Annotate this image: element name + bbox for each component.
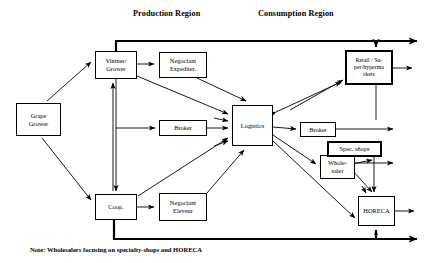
edge-vintner-to-logistics (137, 76, 228, 114)
node-spec-shops[interactable]: Spec. shops (327, 141, 382, 157)
edge-lower-left-to-retail (290, 80, 343, 110)
edge-logistics-to-broker-consumption (273, 127, 296, 129)
node-negociant-expediter[interactable]: NegociantExpediter. (159, 52, 207, 78)
edge-coop-to-logistics (138, 138, 228, 196)
node-vintner-grower[interactable]: Vintner/Grower (95, 51, 137, 79)
node-wholesaler[interactable]: Whole-saler (320, 155, 355, 179)
region-label-consumption: Consumption Region (258, 9, 334, 18)
edge-eleveur-to-logistics (207, 150, 244, 193)
node-retail-supermarkets[interactable]: Retail / Su-per/hypermarkets (345, 50, 393, 85)
diagram-note: Note: Wholesalers focusing on specialty-… (30, 246, 202, 253)
horeca-inbound-cluster (362, 186, 366, 193)
node-grape-grower[interactable]: GrapeGrower (16, 103, 61, 136)
supply-chain-diagram: Production Region Consumption Region Gra… (0, 0, 431, 263)
region-label-production: Production Region (133, 9, 200, 18)
node-negociant-eleveur[interactable]: NegociantEleveur (159, 193, 207, 221)
logistics-inbound-cluster (214, 118, 228, 146)
edge-expediter-to-logistics (197, 78, 246, 101)
edge-logistics-to-wholesaler (273, 135, 316, 164)
node-coop[interactable]: Coop. (95, 194, 137, 220)
node-logistics[interactable]: Logistics (232, 105, 273, 146)
node-broker-production[interactable]: Broker (159, 120, 207, 136)
node-horeca[interactable]: HORECA (358, 196, 395, 226)
edge-grape-to-vintner (47, 62, 91, 101)
edge-wholesaler-to-horeca (352, 170, 372, 192)
edge-grape-to-coop (42, 138, 91, 200)
node-broker-consumption[interactable]: Broker (300, 122, 336, 137)
